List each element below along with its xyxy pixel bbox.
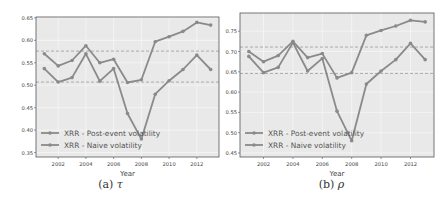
x-tick-label: 2010	[162, 161, 175, 167]
data-point	[247, 55, 251, 59]
data-point	[321, 57, 325, 61]
data-point	[112, 67, 116, 71]
data-point	[167, 79, 171, 83]
data-point	[379, 69, 383, 73]
data-point	[209, 68, 213, 72]
x-tick-label: 2008	[135, 161, 148, 167]
caption-a: (a) τ	[0, 178, 221, 191]
legend-marker	[48, 131, 52, 135]
data-point	[181, 68, 185, 72]
legend-label: XRR - Naive volatility	[64, 141, 143, 150]
line-chart-tau: 0.350.400.450.500.550.600.65200220042006…	[0, 0, 221, 180]
y-tick-label: 0.45	[21, 105, 33, 111]
x-tick-label: 2004	[286, 161, 300, 167]
data-point	[379, 29, 383, 33]
data-point	[43, 52, 47, 56]
data-point	[262, 71, 266, 75]
data-point	[409, 19, 413, 23]
data-point	[140, 78, 144, 82]
y-tick-label: 0.50	[21, 82, 33, 88]
data-point	[423, 20, 427, 24]
legend-label: XRR - Naive volatility	[268, 141, 347, 150]
data-point	[350, 139, 354, 143]
x-axis-label: Year	[329, 170, 345, 178]
y-tick-label: 0.50	[225, 130, 237, 136]
x-tick-label: 2010	[374, 161, 387, 167]
data-point	[56, 64, 60, 68]
y-tick-label: 0.55	[21, 60, 33, 66]
data-point	[276, 66, 280, 70]
caption-b: (b) ρ	[221, 178, 442, 191]
data-point	[276, 54, 280, 58]
data-point	[153, 92, 157, 96]
y-tick-label: 0.65	[225, 69, 237, 75]
data-point	[56, 80, 60, 84]
data-point	[247, 50, 251, 54]
y-tick-label: 0.65	[21, 15, 33, 21]
caption-label: (a)	[98, 178, 113, 191]
x-tick-label: 2002	[257, 161, 270, 167]
data-point	[321, 52, 325, 56]
x-tick-label: 2006	[107, 161, 120, 167]
legend-marker	[48, 143, 52, 147]
y-tick-label: 0.75	[225, 28, 237, 34]
y-tick-label: 0.70	[225, 49, 237, 55]
data-point	[98, 61, 102, 65]
data-point	[291, 41, 295, 45]
data-point	[70, 59, 74, 63]
x-tick-label: 2012	[190, 161, 203, 167]
legend-marker	[252, 143, 256, 147]
x-tick-label: 2008	[345, 161, 358, 167]
data-point	[394, 24, 398, 28]
data-point	[153, 40, 157, 44]
data-point	[423, 58, 427, 62]
data-point	[195, 53, 199, 57]
data-point	[43, 67, 47, 71]
x-axis-label: Year	[119, 170, 135, 178]
data-point	[126, 112, 130, 116]
data-point	[262, 60, 266, 64]
x-tick-label: 2012	[404, 161, 417, 167]
x-tick-label: 2004	[79, 161, 93, 167]
x-tick-label: 2006	[316, 161, 329, 167]
data-point	[394, 58, 398, 62]
caption-label: (b)	[319, 178, 335, 191]
y-tick-label: 0.60	[225, 89, 237, 95]
data-point	[365, 82, 369, 86]
data-point	[335, 109, 339, 113]
legend-label: XRR - Post-event volatility	[64, 129, 161, 138]
y-tick-label: 0.40	[21, 127, 33, 133]
data-point	[306, 56, 310, 60]
legend-marker	[252, 131, 256, 135]
data-point	[167, 35, 171, 39]
y-tick-label: 0.35	[21, 150, 33, 156]
x-tick-label: 2002	[52, 161, 65, 167]
data-point	[335, 76, 339, 80]
y-tick-label: 0.45	[225, 150, 237, 156]
caption-symbol: τ	[117, 178, 123, 191]
data-point	[84, 44, 88, 48]
caption-symbol: ρ	[338, 178, 344, 191]
data-point	[195, 21, 199, 25]
y-tick-label: 0.55	[225, 109, 237, 115]
data-point	[209, 23, 213, 27]
data-point	[306, 69, 310, 73]
chart-panel-b: 0.450.500.550.600.650.700.75200220042006…	[221, 0, 442, 210]
line-chart-rho: 0.450.500.550.600.650.700.75200220042006…	[221, 0, 442, 180]
data-point	[126, 81, 130, 85]
y-tick-label: 0.60	[21, 37, 33, 43]
data-point	[350, 71, 354, 75]
legend-label: XRR - Post-event volatility	[268, 129, 365, 138]
data-point	[70, 76, 74, 80]
data-point	[84, 52, 88, 56]
data-point	[365, 34, 369, 38]
data-point	[112, 57, 116, 61]
data-point	[409, 42, 413, 46]
data-point	[181, 30, 185, 34]
chart-panel-a: 0.350.400.450.500.550.600.65200220042006…	[0, 0, 221, 210]
data-point	[98, 79, 102, 83]
